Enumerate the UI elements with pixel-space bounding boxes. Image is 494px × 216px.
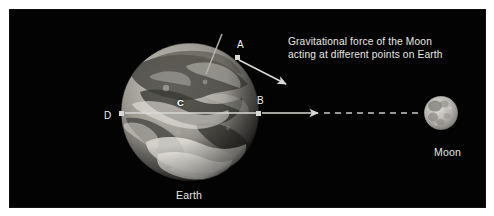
figure-root: A B C D Gravitational force of the Moon …: [0, 0, 494, 216]
point-marker-d: [119, 111, 124, 116]
point-label-c: C: [177, 97, 184, 108]
earth-label: Earth: [176, 189, 202, 201]
point-label-b: B: [257, 95, 264, 106]
caption-line-2: acting at different points on Earth: [288, 48, 486, 61]
moon-label: Moon: [434, 146, 461, 158]
diagram-panel: A B C D Gravitational force of the Moon …: [9, 9, 486, 208]
point-marker-a: [235, 55, 240, 60]
point-marker-b: [256, 111, 261, 116]
point-label-a: A: [237, 39, 244, 50]
caption-text: Gravitational force of the Moon acting a…: [288, 35, 486, 62]
earth-globe: [121, 43, 259, 185]
point-label-d: D: [104, 110, 111, 121]
caption-line-1: Gravitational force of the Moon: [288, 35, 486, 48]
moon-globe: [424, 96, 458, 130]
